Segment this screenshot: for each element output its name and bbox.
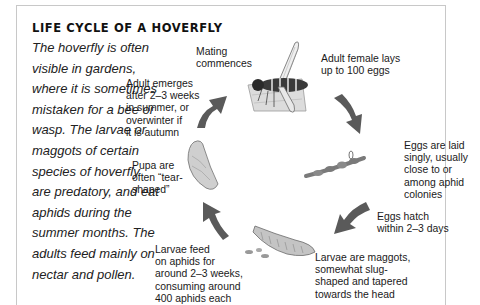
label-pupa: Pupa are often “tear- shaped”: [132, 160, 183, 197]
arrow-to-pupa-icon: [193, 198, 233, 240]
label-adult-emerges: Adult emerges after 2–3 weeks in summer,…: [126, 78, 199, 139]
label-adult-lays: Adult female lays up to 100 eggs: [321, 53, 400, 77]
diagram-title: LIFE CYCLE OF A HOVERFLY: [32, 21, 223, 35]
label-larvae-maggots: Larvae are maggots, somewhat slug- shape…: [315, 252, 410, 301]
pupa-illustration: [180, 138, 225, 193]
arrow-to-mating-icon: [193, 90, 235, 132]
adult-hoverfly-illustration: [240, 35, 320, 115]
label-eggs-hatch: Eggs hatch within 2–3 days: [377, 211, 449, 235]
label-larvae-feed: Larvae feed on aphids for around 2–3 wee…: [155, 244, 243, 305]
label-eggs-laid: Eggs are laid singly, usually close to o…: [404, 140, 468, 201]
larva-maggot-illustration: [245, 218, 320, 263]
arrow-to-eggs-icon: [330, 92, 372, 137]
arrow-to-larvae-icon: [328, 198, 370, 238]
eggs-on-stem-illustration: [300, 150, 370, 185]
